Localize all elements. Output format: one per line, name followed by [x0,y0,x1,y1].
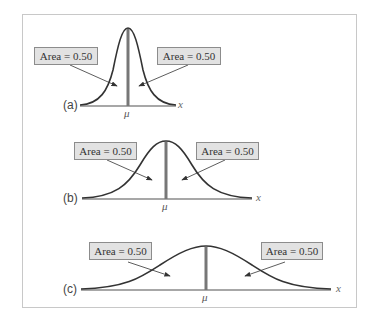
area-label-right-b: Area = 0.50 [196,142,259,160]
axis-label-c: x [336,282,341,294]
mean-label-b: μ [162,200,168,212]
area-label-left-a: Area = 0.50 [34,47,98,65]
area-label-left-b: Area = 0.50 [74,142,137,160]
arrow-right-b [182,160,225,180]
mean-label-c: μ [202,291,208,303]
arrow-right-a [139,65,188,86]
panel-label-a: (a) [63,98,78,112]
arrow-left-c [128,262,170,276]
axis-label-b: x [256,191,261,203]
panel-label-b: (b) [63,191,78,205]
arrow-left-a [70,65,117,86]
arrow-left-b [107,160,152,180]
axis-label-a: x [178,98,183,110]
area-label-left-c: Area = 0.50 [89,242,152,260]
panel-a-graphic [70,28,188,106]
mean-label-a: μ [124,107,130,119]
area-label-right-a: Area = 0.50 [157,47,221,65]
area-label-right-c: Area = 0.50 [261,242,323,260]
panel-label-c: (c) [63,282,77,296]
